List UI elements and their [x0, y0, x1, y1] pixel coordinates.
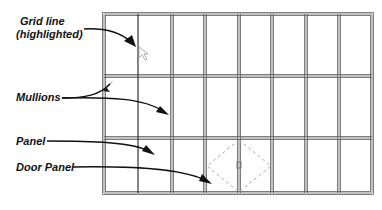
panel-label: Panel: [16, 135, 45, 148]
door-panel-label: Door Panel: [16, 161, 74, 174]
mullions-label: Mullions: [16, 91, 61, 104]
grid-line-highlighted-label: (highlighted): [16, 28, 83, 41]
mouse-pointer-icon: [139, 47, 148, 60]
leader-arrows: [47, 29, 205, 180]
arrowheads: [103, 35, 212, 184]
grid-line-label: Grid line: [20, 15, 65, 28]
